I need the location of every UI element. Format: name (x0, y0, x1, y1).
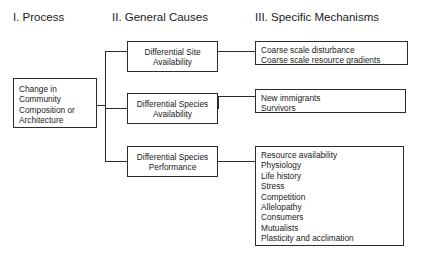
mechanism-item: Survivors (261, 103, 401, 113)
mechanism-item: Life history (261, 171, 399, 181)
mechanism-item: Resource availability (261, 150, 399, 160)
box-differential-species-performance: Differential Species Performance (127, 146, 218, 177)
root-line-2: Community (19, 94, 92, 104)
mechanism-item: New immigrants (261, 93, 401, 103)
connector-trunk-to-site (105, 51, 128, 52)
box-differential-species-availability: Differential Species Availability (127, 93, 218, 124)
species-availability-line-1: Differential Species (132, 99, 213, 109)
root-line-1: Change in (19, 84, 92, 94)
species-availability-line-2: Availability (132, 109, 213, 119)
mechanism-item: Plasticity and acclimation (261, 233, 399, 243)
succession-framework-diagram: I. Process II. General Causes III. Speci… (0, 0, 421, 256)
connector-species-availability-to-mechanisms (218, 96, 255, 97)
species-performance-line-1: Differential Species (132, 152, 213, 162)
column-header-general-causes: II. General Causes (112, 11, 208, 24)
mechanism-item: Allelopathy (261, 202, 399, 212)
mechanism-item: Mutualists (261, 223, 399, 233)
site-line-2: Availability (132, 57, 213, 67)
mechanism-item: Competition (261, 192, 399, 202)
connector-site-to-mechanisms (218, 51, 255, 52)
mechanism-item: Physiology (261, 160, 399, 170)
box-species-performance-mechanisms: Resource availability Physiology Life hi… (255, 146, 404, 246)
column-header-process: I. Process (13, 11, 64, 24)
mechanism-item: Consumers (261, 212, 399, 222)
site-line-1: Differential Site (132, 47, 213, 57)
mechanism-item: Stress (261, 181, 399, 191)
mechanism-item: Coarse scale disturbance (261, 45, 403, 55)
box-species-availability-mechanisms: New immigrants Survivors (255, 89, 406, 113)
column-header-specific-mechanisms: III. Specific Mechanisms (255, 11, 379, 24)
species-performance-line-2: Performance (132, 162, 213, 172)
box-change-in-community: Change in Community Composition or Archi… (13, 78, 97, 128)
connector-trunk-to-species-performance (105, 161, 128, 162)
mechanism-item: Coarse scale resource gradients (261, 55, 403, 65)
connector-trunk-vertical (105, 51, 106, 162)
connector-species-performance-to-mechanisms (218, 161, 255, 162)
connector-trunk-to-species-availability (105, 108, 128, 109)
box-differential-site-availability: Differential Site Availability (127, 41, 218, 72)
box-site-availability-mechanisms: Coarse scale disturbance Coarse scale re… (255, 41, 408, 65)
connector-species-availability-riser (218, 96, 219, 109)
root-line-3: Composition or (19, 105, 92, 115)
root-line-4: Architecture (19, 115, 92, 125)
